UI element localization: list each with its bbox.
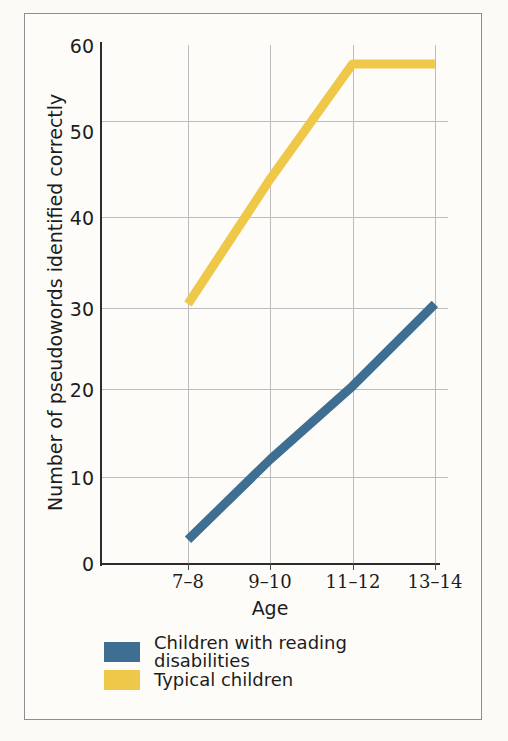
legend-item-typical-children: Typical children — [104, 669, 434, 691]
x-tick-label-11-12: 11–12 — [308, 571, 398, 592]
gridline-y-50 — [100, 121, 448, 122]
y-axis-line — [100, 42, 102, 566]
gridline-y-20 — [100, 389, 448, 390]
figure-container: Number of pseudowords identified correct… — [0, 0, 508, 741]
legend-swatch-icon-reading-disabilities — [104, 642, 140, 662]
gridline-x-11-12 — [353, 45, 354, 563]
gridline-x-7-8 — [188, 45, 189, 563]
gridline-y-40 — [100, 217, 448, 218]
gridline-y-30 — [100, 308, 448, 309]
gridline-x-13-14 — [435, 45, 436, 563]
x-tick-mark-13-14 — [435, 563, 436, 570]
x-tick-mark-9-10 — [270, 563, 271, 570]
y-tick-label-60: 60 — [54, 37, 94, 56]
x-axis-label: Age — [100, 597, 440, 619]
gridline-x-9-10 — [270, 45, 271, 563]
legend-label-reading-disabilities: Children with reading disabilities — [154, 634, 434, 670]
y-tick-label-50: 50 — [54, 123, 94, 142]
plot-area — [100, 45, 448, 563]
gridline-y-10 — [100, 477, 448, 478]
x-tick-mark-7-8 — [188, 563, 189, 570]
y-tick-label-30: 30 — [54, 300, 94, 319]
y-tick-label-group: 60 50 40 30 20 10 0 — [52, 0, 94, 741]
legend-label-typical-children: Typical children — [154, 671, 293, 689]
y-tick-label-40: 40 — [54, 209, 94, 228]
legend: Children with reading disabilities Typic… — [104, 641, 434, 697]
legend-swatch-icon-typical-children — [104, 670, 140, 690]
legend-item-reading-disabilities: Children with reading disabilities — [104, 641, 434, 663]
y-tick-label-20: 20 — [54, 381, 94, 400]
y-tick-label-0: 0 — [54, 555, 94, 574]
x-tick-label-7-8: 7–8 — [143, 571, 233, 592]
x-tick-label-13-14: 13–14 — [390, 571, 480, 592]
x-tick-mark-11-12 — [353, 563, 354, 570]
x-tick-label-9-10: 9–10 — [225, 571, 315, 592]
y-tick-label-10: 10 — [54, 469, 94, 488]
y-axis-label-host: Number of pseudowords identified correct… — [0, 0, 60, 741]
